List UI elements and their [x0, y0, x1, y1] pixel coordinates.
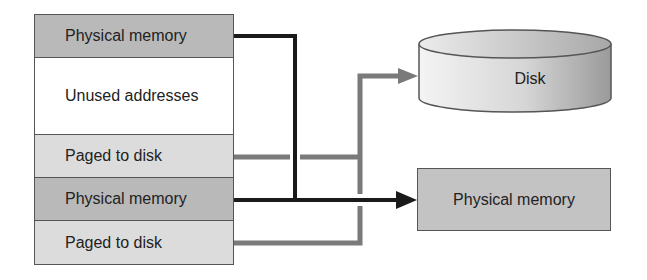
paged-to-disk-connector — [234, 76, 400, 243]
connector-lines — [0, 0, 647, 280]
arrowhead-to-physical-memory — [396, 191, 417, 209]
physical-memory-label: Physical memory — [453, 191, 575, 209]
physical-memory-connector — [234, 36, 400, 200]
disk-label: Disk — [480, 70, 580, 88]
physical-memory-box: Physical memory — [417, 168, 611, 231]
arrowhead-to-disk — [398, 68, 418, 84]
